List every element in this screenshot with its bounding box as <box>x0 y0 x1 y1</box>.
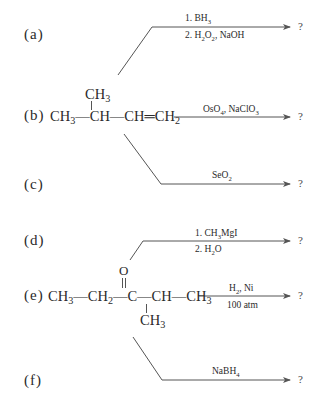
label-c: (c) <box>24 176 44 193</box>
reagent-d-line1: 1. CH3MgI <box>195 228 237 238</box>
substrate-e-oxygen: O <box>119 263 128 279</box>
substrate-b-branch-ch3: CH3 <box>85 86 110 103</box>
reagent-c: SeO2 <box>212 170 232 180</box>
label-d: (d) <box>24 232 45 249</box>
product-c: ? <box>298 177 303 189</box>
reaction-arrows <box>0 0 316 406</box>
reagent-a-line2: 2. H2O2, NaOH <box>185 30 244 40</box>
substrate-e-chain: CH3—CH2—C—CH—CH3 <box>48 288 211 305</box>
reagent-e-line2: 100 atm <box>227 300 258 310</box>
product-a: ? <box>298 20 303 32</box>
product-e: ? <box>298 289 303 301</box>
product-d: ? <box>298 234 303 246</box>
reagent-b: OsO4, NaClO3 <box>203 104 259 114</box>
arrow-c <box>124 134 290 184</box>
label-f: (f) <box>24 372 42 389</box>
product-f: ? <box>298 373 303 385</box>
label-e: (e) <box>24 287 44 304</box>
substrate-e-double-bond-1 <box>122 278 123 288</box>
substrate-e-double-bond-2 <box>125 278 126 288</box>
substrate-b-chain: CH3—CH—CH═CH2 <box>50 108 180 125</box>
reagent-a-line1: 1. BH3 <box>185 13 211 23</box>
reagent-f: NaBH4 <box>212 366 240 376</box>
reagent-e-line1: H2, Ni <box>229 283 253 293</box>
label-a: (a) <box>24 26 44 43</box>
substrate-e-branch-ch3: CH3 <box>140 312 165 329</box>
label-b: (b) <box>24 107 45 124</box>
product-b: ? <box>298 110 303 122</box>
reagent-d-line2: 2. H2O <box>195 244 222 254</box>
